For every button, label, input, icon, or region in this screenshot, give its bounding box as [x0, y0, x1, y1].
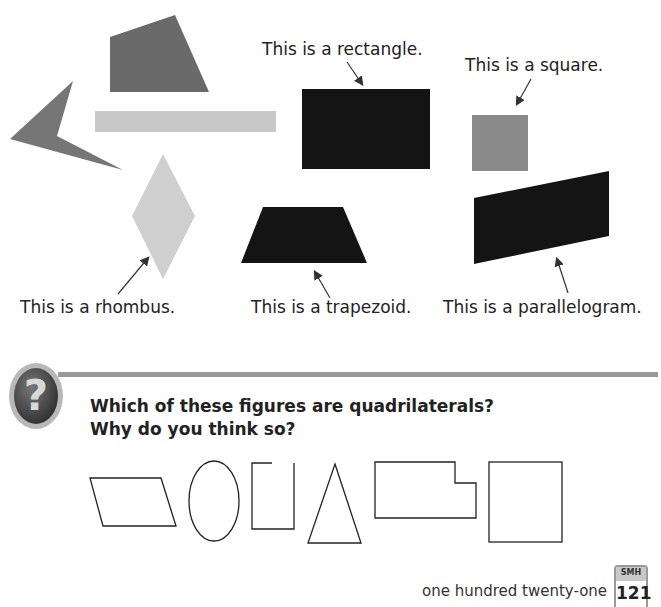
outline-oval	[189, 461, 239, 541]
badge-label: SMH	[616, 567, 646, 581]
parallelogram-shape	[474, 171, 609, 264]
question-mark-icon: ?	[8, 360, 64, 432]
outline-square	[489, 462, 562, 542]
square-shape	[472, 115, 528, 171]
parallelogram-label: This is a parallelogram.	[443, 297, 642, 317]
svg-text:?: ?	[24, 371, 48, 420]
section-divider	[58, 372, 658, 377]
outline-open-rectangle	[252, 463, 294, 529]
square-label: This is a square.	[465, 55, 603, 75]
figure-illustrations	[0, 0, 661, 560]
trapezoid-label: This is a trapezoid.	[251, 297, 412, 317]
outline-notched-rectangle	[375, 462, 476, 518]
outline-triangle	[308, 464, 361, 543]
question-line-2: Why do you think so?	[90, 419, 295, 439]
page-badge: SMH 121	[614, 565, 648, 607]
page-number-words: one hundred twenty-one	[422, 582, 607, 600]
rhombus-label: This is a rhombus.	[20, 297, 175, 317]
irregular-quadrilateral	[110, 15, 209, 92]
page-number: 121	[616, 581, 646, 605]
outline-shapes-row	[90, 461, 562, 543]
outline-parallelogram	[90, 478, 176, 526]
question-line-1: Which of these figures are quadrilateral…	[90, 396, 494, 416]
rhombus-shape	[132, 154, 195, 279]
rectangle-label: This is a rectangle.	[262, 39, 423, 59]
long-bar-rectangle	[95, 111, 276, 132]
rectangle-shape	[302, 89, 430, 169]
trapezoid-shape	[241, 207, 367, 263]
